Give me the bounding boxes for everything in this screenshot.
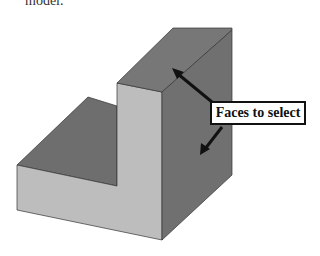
- l-block-model: [0, 0, 320, 256]
- faces-to-select-label: Faces to select: [210, 101, 306, 125]
